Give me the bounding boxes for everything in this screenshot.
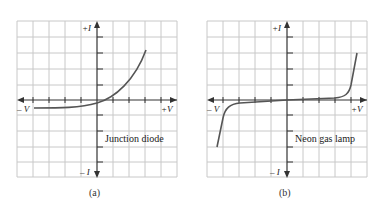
x-axis-arrow-right-icon <box>170 97 177 103</box>
figure-caption: (a) <box>89 188 100 198</box>
axis-label-neg-i: – I <box>80 168 90 177</box>
axis-label-pos-i: +I <box>272 24 281 33</box>
axis-label-pos-v: +V <box>161 105 173 114</box>
x-axis-arrow-left-icon <box>17 97 24 103</box>
panel-neon-gas-lamp: +I – I – V +V Neon gas lamp (b) <box>190 0 380 207</box>
panel-junction-diode: +I – I – V +V Junction diode (a) <box>0 0 190 207</box>
axis-label-neg-i: – I <box>270 168 280 177</box>
axis-label-neg-v: – V <box>17 105 29 114</box>
x-axis-arrow-right-icon <box>360 97 367 103</box>
axis-label-neg-v: – V <box>207 105 219 114</box>
axis-label-pos-i: +I <box>82 24 91 33</box>
graph-title: Junction diode <box>105 134 164 144</box>
graph-title: Neon gas lamp <box>295 134 355 144</box>
axes <box>19 25 177 176</box>
y-axis-arrow-up-icon <box>284 21 290 28</box>
figure-caption: (b) <box>279 188 291 198</box>
axis-label-pos-v: +V <box>351 105 363 114</box>
y-axis-arrow-up-icon <box>94 21 100 28</box>
x-axis-arrow-left-icon <box>207 97 214 103</box>
